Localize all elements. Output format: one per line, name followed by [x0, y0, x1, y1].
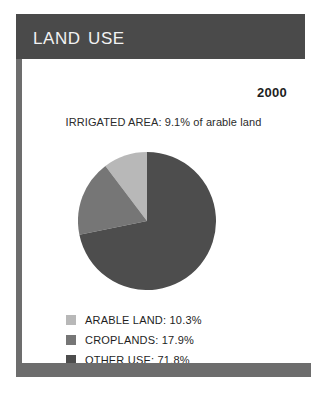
- year-label: 2000: [257, 85, 287, 100]
- panel-footer-bar: [22, 363, 311, 377]
- legend-swatch-croplands: [66, 335, 76, 345]
- legend-label-arable-land: ARABLE LAND: 10.3%: [85, 314, 202, 326]
- legend-label-croplands: CROPLANDS: 17.9%: [85, 334, 194, 346]
- legend-item-arable-land: ARABLE LAND: 10.3%: [66, 310, 296, 330]
- panel-header-bar: LAND USE: [16, 14, 305, 59]
- chart-legend: ARABLE LAND: 10.3% CROPLANDS: 17.9% OTHE…: [66, 310, 296, 370]
- legend-swatch-arable-land: [66, 315, 76, 325]
- irrigated-area-note: IRRIGATED AREA: 9.1% of arable land: [22, 116, 305, 128]
- pie-slice-group: [78, 152, 216, 290]
- land-use-pie-chart: [78, 152, 216, 290]
- page-title: LAND USE: [33, 21, 125, 51]
- land-use-infographic-panel: LAND USE 2000 IRRIGATED AREA: 9.1% of ar…: [16, 14, 305, 391]
- panel-body: 2000 IRRIGATED AREA: 9.1% of arable land…: [16, 59, 305, 377]
- legend-item-croplands: CROPLANDS: 17.9%: [66, 330, 296, 350]
